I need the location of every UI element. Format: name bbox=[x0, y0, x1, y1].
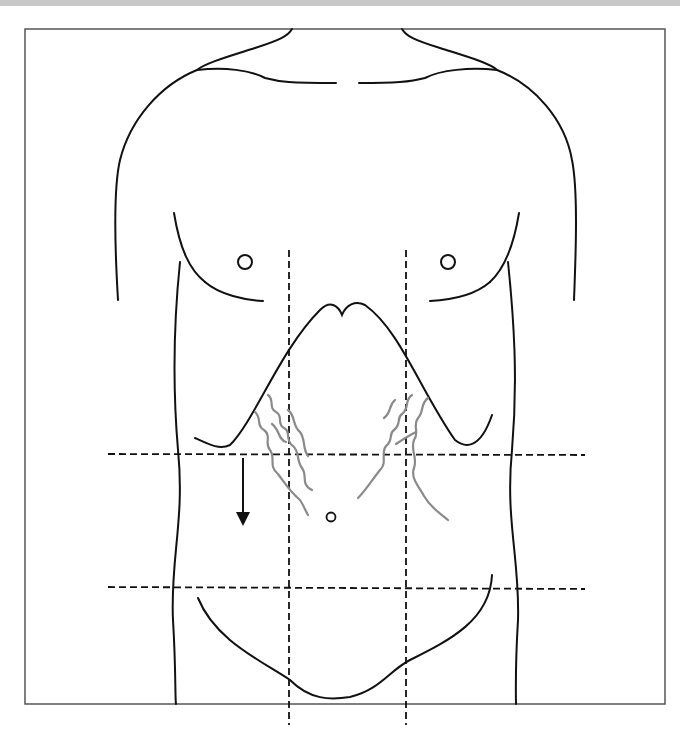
nipple-right bbox=[441, 255, 455, 269]
umbilicus bbox=[327, 513, 336, 522]
down-arrow-icon bbox=[236, 458, 250, 526]
torso-diagram bbox=[0, 0, 680, 739]
nipple-left bbox=[238, 255, 252, 269]
diagram-frame bbox=[25, 29, 665, 704]
dilated-veins bbox=[255, 395, 448, 520]
torso-outline bbox=[115, 29, 576, 704]
